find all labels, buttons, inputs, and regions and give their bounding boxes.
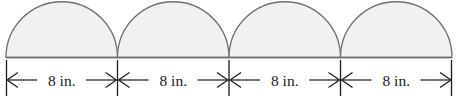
dimension-4-label: 8 in. (382, 72, 410, 89)
geometry-figure: 8 in. 8 in. 8 in. 8 in. (0, 0, 461, 100)
dimension-1: 8 in. (7, 72, 117, 89)
figure-canvas: 8 in. 8 in. 8 in. 8 in. (0, 0, 461, 100)
semicircle-3 (229, 2, 341, 58)
semicircle-group (6, 2, 452, 58)
semicircle-4 (341, 2, 453, 58)
dimension-3: 8 in. (230, 72, 340, 89)
dimension-2-label: 8 in. (159, 72, 187, 89)
semicircle-2 (118, 2, 230, 58)
dimension-4: 8 in. (342, 72, 452, 89)
dimension-3-label: 8 in. (271, 72, 299, 89)
dimension-2: 8 in. (119, 72, 229, 89)
semicircle-1 (6, 2, 118, 58)
dimension-1-label: 8 in. (48, 72, 76, 89)
